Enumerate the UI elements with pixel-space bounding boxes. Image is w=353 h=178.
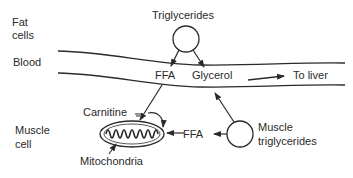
arrow-mitochondria-label xyxy=(109,144,116,154)
label-muscle: Muscle xyxy=(15,124,50,137)
label-muscle-tg-1: Muscle xyxy=(258,121,293,134)
arrow-to-liver xyxy=(248,76,284,80)
label-mitochondria: Mitochondria xyxy=(80,155,143,168)
muscle-triglycerides-circle xyxy=(227,121,253,147)
carnitine-shuttle xyxy=(135,114,141,116)
label-cell: cell xyxy=(15,138,32,151)
triglycerides-circle xyxy=(173,26,199,52)
label-fat: Fat xyxy=(12,16,28,29)
label-to-liver: To liver xyxy=(293,69,328,82)
label-ffa-blood: FFA xyxy=(155,69,175,82)
fat-metabolism-diagram xyxy=(0,0,353,178)
label-carnitine: Carnitine xyxy=(83,106,127,119)
label-muscle-tg-2: triglycerides xyxy=(258,135,317,148)
label-triglycerides: Triglycerides xyxy=(152,9,214,22)
label-ffa-muscle: FFA xyxy=(183,128,203,141)
label-cells: cells xyxy=(12,29,34,42)
arrow-muscle-tg-to-glycerol xyxy=(215,93,234,122)
label-blood: Blood xyxy=(13,56,41,69)
label-glycerol: Glycerol xyxy=(192,69,232,82)
